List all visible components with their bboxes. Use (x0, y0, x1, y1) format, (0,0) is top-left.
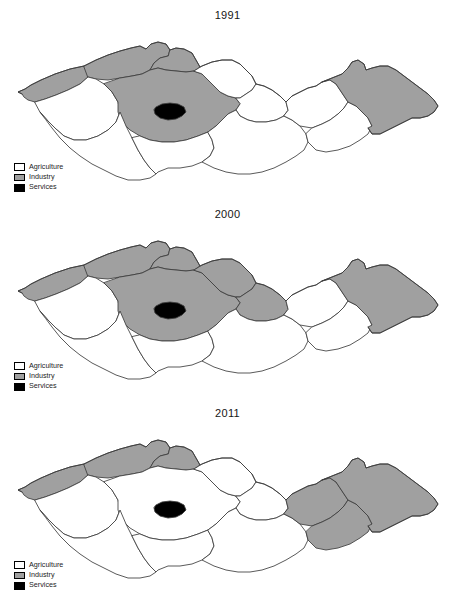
legend-label-services: Services (29, 381, 57, 391)
panel-title-1991: 1991 (0, 9, 463, 21)
legend-2011: Agriculture Industry Services (14, 560, 63, 591)
map-panel-2000: 2000 (0, 199, 463, 398)
legend-swatch-industry-icon (14, 373, 25, 380)
legend-swatch-services-icon (14, 184, 25, 191)
legend-swatch-services-icon (14, 383, 25, 390)
legend-label-industry: Industry (29, 371, 55, 381)
legend-item-agriculture: Agriculture (14, 162, 63, 172)
legend-item-services: Services (14, 581, 63, 591)
map-panel-1991: 1991 (0, 0, 463, 199)
legend-item-agriculture: Agriculture (14, 560, 63, 570)
panel-title-2011: 2011 (0, 407, 463, 419)
czech-regions-svg-2011 (0, 420, 463, 590)
legend-2000: Agriculture Industry Services (14, 361, 63, 392)
legend-label-services: Services (29, 182, 57, 192)
legend-item-industry: Industry (14, 172, 63, 182)
legend-item-services: Services (14, 382, 63, 392)
legend-swatch-industry-icon (14, 572, 25, 579)
legend-swatch-industry-icon (14, 174, 25, 181)
panel-title-2000: 2000 (0, 208, 463, 220)
legend-swatch-agriculture-icon (14, 561, 25, 568)
legend-item-industry: Industry (14, 570, 63, 580)
map-canvas-2011 (0, 420, 463, 590)
legend-label-services: Services (29, 580, 57, 590)
legend-label-agriculture: Agriculture (29, 560, 63, 570)
legend-swatch-services-icon (14, 582, 25, 589)
map-canvas-1991 (0, 22, 463, 192)
legend-swatch-agriculture-icon (14, 163, 25, 170)
legend-swatch-agriculture-icon (14, 362, 25, 369)
legend-label-industry: Industry (29, 172, 55, 182)
three-panel-map-figure: 1991 (0, 0, 463, 597)
legend-label-industry: Industry (29, 570, 55, 580)
map-canvas-2000 (0, 221, 463, 391)
czech-regions-svg-2000 (0, 221, 463, 391)
czech-regions-svg-1991 (0, 22, 463, 192)
legend-item-industry: Industry (14, 371, 63, 381)
legend-item-agriculture: Agriculture (14, 361, 63, 371)
legend-1991: Agriculture Industry Services (14, 162, 63, 193)
map-panel-2011: 2011 (0, 398, 463, 597)
legend-item-services: Services (14, 183, 63, 193)
legend-label-agriculture: Agriculture (29, 162, 63, 172)
legend-label-agriculture: Agriculture (29, 361, 63, 371)
